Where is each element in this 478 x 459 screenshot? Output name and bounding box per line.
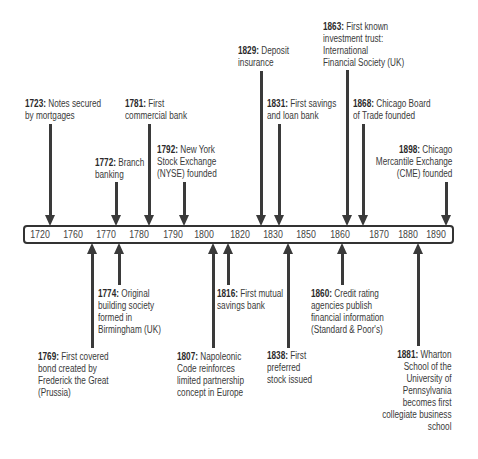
arrow-1863-stem — [346, 70, 349, 216]
arrow-1838-stem — [287, 253, 290, 348]
tick-label: 1820 — [230, 229, 250, 241]
arrow-1898-stem — [445, 182, 448, 216]
event-text: (Standard & Poor's) — [311, 324, 384, 336]
event-1838-label: 1838: First preferred stock issued — [267, 350, 312, 386]
event-text: bond created by — [38, 363, 109, 375]
tick-label: 1760 — [63, 229, 83, 241]
event-text: preferred — [267, 362, 312, 374]
event-year: 1792: — [157, 144, 178, 155]
event-1792-label: 1792: New York Stock Exchange (NYSE) fou… — [157, 144, 217, 180]
tick-label: 1890 — [426, 229, 446, 241]
event-text: concept in Europe — [177, 387, 244, 399]
tick-label: 1880 — [398, 229, 418, 241]
tick-label: 1830 — [263, 229, 283, 241]
event-text: collegiate business — [382, 409, 451, 421]
event-1816-label: 1816: First mutual savings bank — [217, 288, 283, 312]
event-1772-label: 1772: Branch banking — [95, 157, 144, 181]
event-text: stock issued — [267, 374, 312, 386]
arrow-1816-stem — [227, 253, 230, 285]
event-text: Chicago — [420, 144, 452, 155]
event-year: 1881: — [397, 349, 418, 360]
arrow-down-icon — [342, 215, 352, 226]
event-text: Napoleonic — [198, 351, 241, 362]
event-1881-label: 1881: Wharton School of the University o… — [382, 349, 451, 433]
event-1769-label: 1769: First covered bond created by Fred… — [38, 351, 109, 399]
event-text: First mutual — [238, 288, 283, 299]
event-text: First covered — [59, 351, 109, 362]
arrow-down-icon — [179, 215, 189, 226]
tick-label: 1850 — [296, 229, 316, 241]
event-text: First savings — [288, 98, 336, 109]
event-text: First — [146, 98, 164, 109]
event-1860-label: 1860: Credit rating agencies publish fin… — [311, 288, 384, 336]
arrow-1829-stem — [260, 71, 263, 216]
arrow-1831-stem — [278, 124, 281, 216]
event-text: agencies publish — [311, 300, 384, 312]
arrow-1772-stem — [115, 182, 118, 216]
event-1829-label: 1829: Deposit insurance — [238, 45, 289, 69]
arrow-down-icon — [111, 215, 121, 226]
event-year: 1898: — [399, 144, 420, 155]
event-text: Wharton — [418, 349, 451, 360]
financial-history-timeline: 1720 1760 1770 1780 1790 1800 1820 1830 … — [0, 0, 478, 459]
event-text: banking — [95, 169, 144, 181]
arrow-1769-stem — [91, 253, 94, 348]
event-text: First known — [344, 21, 388, 32]
event-year: 1781: — [125, 98, 146, 109]
tick-label: 1770 — [96, 229, 116, 241]
event-year: 1774: — [98, 288, 119, 299]
arrow-1774-stem — [118, 253, 121, 285]
event-text: (NYSE) founded — [157, 168, 217, 180]
tick-label: 1720 — [30, 229, 50, 241]
event-text: financial information — [311, 312, 384, 324]
event-text: of Trade founded — [353, 110, 431, 122]
event-year: 1772: — [95, 157, 116, 168]
tick-label: 1780 — [129, 229, 149, 241]
event-text: building society — [98, 300, 161, 312]
event-text: International — [323, 45, 404, 57]
event-text: formed in — [98, 312, 161, 324]
event-1863-label: 1863: First known investment trust: Inte… — [323, 21, 404, 69]
event-text: University of — [382, 373, 451, 385]
event-year: 1868: — [353, 98, 374, 109]
arrow-1781-stem — [148, 124, 151, 216]
arrow-down-icon — [256, 215, 266, 226]
event-text: by mortgages — [25, 110, 101, 122]
event-text: (CME) founded — [375, 168, 452, 180]
event-year: 1838: — [267, 350, 288, 361]
tick-label: 1800 — [194, 229, 214, 241]
event-text: Birmingham (UK) — [98, 324, 161, 336]
event-text: Credit rating — [332, 288, 379, 299]
event-text: becomes first — [382, 397, 451, 409]
event-text: limited partnership — [177, 375, 244, 387]
event-1807-label: 1807: Napoleonic Code reinforces limited… — [177, 351, 244, 399]
event-1774-label: 1774: Original building society formed i… — [98, 288, 161, 336]
arrow-1723-stem — [49, 124, 52, 216]
event-text: commercial bank — [125, 110, 187, 122]
event-text: Original — [119, 288, 150, 299]
tick-label: 1870 — [369, 229, 389, 241]
event-text: Deposit — [259, 45, 289, 56]
arrow-1792-stem — [183, 182, 186, 216]
event-year: 1769: — [38, 351, 59, 362]
event-text: Code reinforces — [177, 363, 244, 375]
event-year: 1816: — [217, 288, 238, 299]
event-text: (Prussia) — [38, 387, 109, 399]
arrow-down-icon — [358, 215, 368, 226]
event-text: Financial Society (UK) — [323, 57, 404, 69]
arrow-down-icon — [441, 215, 451, 226]
event-text: Chicago Board — [374, 98, 431, 109]
event-text: Stock Exchange — [157, 156, 217, 168]
event-1868-label: 1868: Chicago Board of Trade founded — [353, 98, 431, 122]
event-year: 1860: — [311, 288, 332, 299]
event-text: Mercantile Exchange — [375, 156, 452, 168]
arrow-down-icon — [274, 215, 284, 226]
tick-label: 1790 — [163, 229, 183, 241]
event-text: Pennsylvania — [382, 385, 451, 397]
event-text: Branch — [116, 157, 144, 168]
event-text: New York — [178, 144, 215, 155]
arrow-down-icon — [144, 215, 154, 226]
arrow-1881-stem — [417, 253, 420, 346]
event-1898-label: 1898: Chicago Mercantile Exchange (CME) … — [375, 144, 452, 180]
event-year: 1863: — [323, 21, 344, 32]
